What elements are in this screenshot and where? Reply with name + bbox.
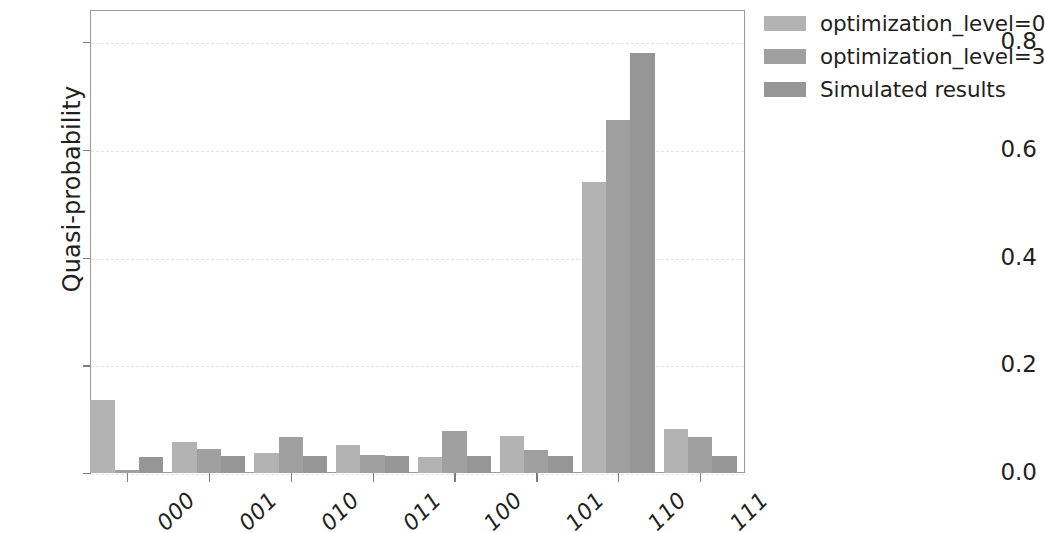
x-axis-tick-label: 011 (397, 487, 445, 533)
legend-swatch (764, 16, 806, 31)
x-axis-tick-label: 000 (152, 487, 200, 533)
x-axis-tick-label: 101 (561, 487, 609, 533)
gridline (91, 474, 744, 476)
chart-legend: optimization_level=0optimization_level=3… (764, 8, 1034, 107)
x-axis-tick-mark (373, 473, 374, 482)
gridline (91, 366, 744, 368)
legend-label: optimization_level=3 (820, 44, 1045, 69)
plot-area (90, 10, 745, 473)
legend-item: optimization_level=0 (764, 8, 1034, 38)
legend-swatch (764, 49, 806, 64)
x-axis-tick-mark (127, 473, 128, 482)
x-axis-tick-label: 111 (725, 487, 773, 533)
legend-item: Simulated results (764, 74, 1034, 104)
gridline (91, 43, 744, 45)
y-axis-tick-label: 0.2 (971, 353, 1037, 376)
x-axis-tick-label: 010 (315, 487, 363, 533)
y-axis-tick-mark (83, 473, 91, 474)
legend-swatch (764, 82, 806, 97)
x-axis-tick-mark (618, 473, 619, 482)
legend-label: optimization_level=0 (820, 11, 1045, 36)
x-axis-tick-label: 110 (643, 487, 691, 533)
x-axis-tick-mark (700, 473, 701, 482)
x-axis-tick-mark (536, 473, 537, 482)
x-axis-tick-label: 001 (234, 487, 282, 533)
x-axis-tick-mark (291, 473, 292, 482)
legend-label: Simulated results (820, 77, 1006, 102)
x-axis-tick-mark (209, 473, 210, 482)
y-axis-title: Quasi-probability (58, 39, 86, 339)
y-axis-tick-label: 0.6 (971, 138, 1037, 161)
legend-item: optimization_level=3 (764, 41, 1034, 71)
gridline (91, 151, 744, 153)
x-axis-tick-label: 100 (479, 487, 527, 533)
x-axis-tick-mark (454, 473, 455, 482)
gridline (91, 259, 744, 261)
y-axis-tick-label: 0.0 (971, 461, 1037, 484)
y-axis-tick-label: 0.4 (971, 246, 1037, 269)
